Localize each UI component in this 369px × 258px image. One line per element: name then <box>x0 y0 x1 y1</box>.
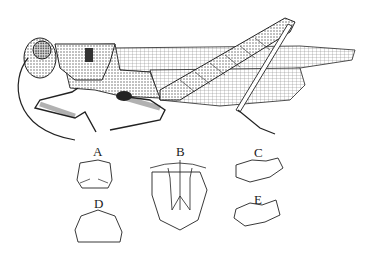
compound-eye <box>33 41 51 59</box>
label-b: B <box>176 145 185 158</box>
figure-a-outline <box>77 160 112 188</box>
label-a: A <box>93 145 102 158</box>
grasshopper-illustration <box>0 0 369 258</box>
figure-d-outline <box>75 210 122 242</box>
figure-c-outline <box>236 158 283 182</box>
label-d: D <box>94 197 103 210</box>
figure-b-outline <box>152 172 207 230</box>
label-e: E <box>254 193 262 206</box>
label-c: C <box>254 146 263 159</box>
front-leg <box>35 88 96 132</box>
